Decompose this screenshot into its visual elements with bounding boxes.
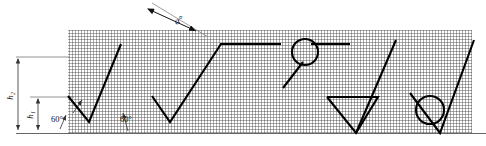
angle-callout-middle: 60° [120, 114, 132, 124]
extension-lines [16, 57, 74, 97]
dimension-h2-label: h₂ [5, 92, 15, 100]
angle-callout-left: 60° [51, 114, 63, 124]
engineering-drawing-svg: h₂ h₁ 60° 60° α° [0, 0, 486, 146]
drawing-canvas: h₂ h₁ 60° 60° α° [0, 0, 486, 146]
dimension-h1-label: h₁ [25, 111, 35, 119]
